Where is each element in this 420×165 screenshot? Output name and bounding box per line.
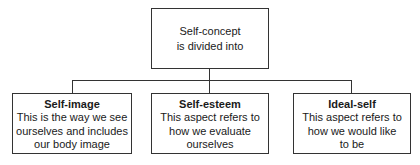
node-title: Ideal-self [294, 97, 410, 111]
node-desc-line: ourselves [152, 138, 268, 152]
node-self-esteem: Self-esteem This aspect refers to how we… [151, 93, 269, 154]
node-desc-line: how we evaluate [152, 125, 268, 139]
root-label-line-2: is divided into [152, 39, 268, 54]
node-desc-line: our body image [13, 138, 131, 152]
node-desc-line: This aspect refers to [294, 111, 410, 125]
node-desc-line: This aspect refers to [152, 111, 268, 125]
node-ideal-self: Ideal-self This aspect refers to how we … [293, 93, 411, 154]
node-desc-line: ourselves and includes [13, 125, 131, 139]
horizontal-connector [72, 80, 352, 81]
connector-ideal-self [351, 80, 352, 93]
node-self-image: Self-image This is the way we see oursel… [12, 93, 132, 154]
node-title: Self-esteem [152, 97, 268, 111]
node-desc-line: to be [294, 138, 410, 152]
node-desc-line: This is the way we see [13, 111, 131, 125]
node-title: Self-image [13, 97, 131, 111]
connector-self-esteem [209, 80, 210, 93]
root-node-self-concept: Self-concept is divided into [151, 8, 269, 69]
node-desc-line: how we would like [294, 125, 410, 139]
connector-self-image [72, 80, 73, 93]
root-label-line-1: Self-concept [152, 24, 268, 39]
